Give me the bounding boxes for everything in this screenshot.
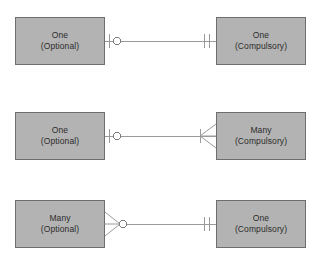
connector-row2 — [105, 124, 216, 148]
entity-label-line1: Many — [250, 125, 271, 136]
entity-label-line1: One — [52, 30, 68, 41]
optional-circle-row1-left — [113, 37, 120, 44]
entity-label-line1: One — [253, 213, 269, 224]
entity-label-line2: (Compulsory) — [235, 41, 287, 52]
optional-circle-row2-left — [113, 132, 120, 139]
connector-row1 — [105, 34, 216, 48]
optional-circle-row3-left — [119, 220, 126, 227]
er-notation-diagram: One (Optional) One (Compulsory) One (Opt… — [0, 0, 321, 260]
entity-label-line2: (Optional) — [41, 136, 79, 147]
entity-box-row1-left[interactable]: One (Optional) — [15, 17, 105, 65]
crows-foot-row2-right — [200, 124, 216, 148]
crows-foot-row3-left — [105, 212, 120, 236]
entity-box-row3-left[interactable]: Many (Optional) — [15, 200, 105, 248]
entity-box-row1-right[interactable]: One (Compulsory) — [216, 17, 306, 65]
entity-label-line2: (Optional) — [41, 224, 79, 235]
entity-label-line2: (Compulsory) — [235, 224, 287, 235]
entity-box-row2-left[interactable]: One (Optional) — [15, 112, 105, 160]
entity-label-line2: (Optional) — [41, 41, 79, 52]
connector-row3 — [105, 212, 216, 236]
entity-box-row2-right[interactable]: Many (Compulsory) — [216, 112, 306, 160]
entity-box-row3-right[interactable]: One (Compulsory) — [216, 200, 306, 248]
entity-label-line1: One — [52, 125, 68, 136]
entity-label-line2: (Compulsory) — [235, 136, 287, 147]
entity-label-line1: Many — [49, 213, 70, 224]
entity-label-line1: One — [253, 30, 269, 41]
